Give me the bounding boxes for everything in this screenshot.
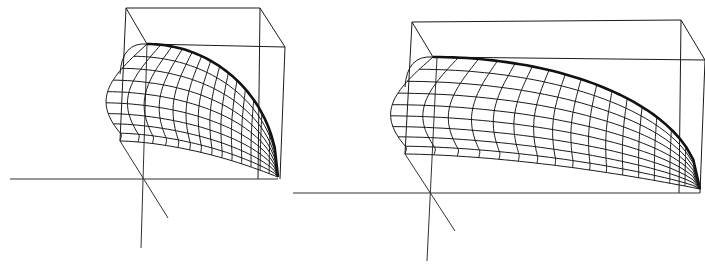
box-edge — [280, 47, 285, 179]
z-axis — [141, 44, 147, 248]
box-edge — [412, 20, 681, 22]
z-axis — [427, 57, 437, 261]
surface-mesh — [391, 57, 700, 189]
box-edge — [412, 22, 433, 57]
figure-canvas — [0, 0, 705, 271]
left-wireframe-plot — [10, 8, 285, 248]
surface-mesh — [106, 44, 278, 177]
mesh-row-line — [405, 154, 700, 189]
mesh-row-line — [391, 116, 700, 189]
right-wireframe-plot — [293, 20, 705, 261]
box-edge — [681, 20, 705, 60]
box-edge — [260, 8, 285, 47]
box-edge — [126, 8, 147, 44]
surface-ridge — [433, 57, 700, 189]
box-edge — [700, 60, 705, 193]
mesh-row-line — [405, 146, 700, 189]
box-edge — [405, 22, 412, 154]
box-edge — [120, 8, 126, 141]
